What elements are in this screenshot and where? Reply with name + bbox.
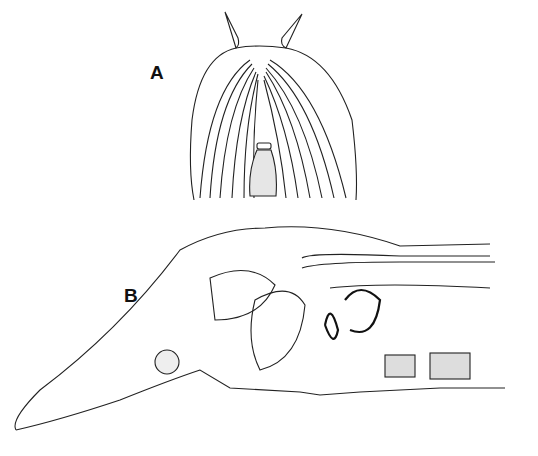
panel-a-drawing <box>190 12 356 200</box>
panel-label-b: B <box>124 285 138 307</box>
figure-drawing <box>0 0 538 456</box>
panel-b-drawing <box>15 227 505 430</box>
panel-label-a: A <box>150 62 164 84</box>
